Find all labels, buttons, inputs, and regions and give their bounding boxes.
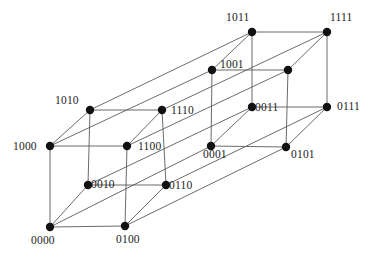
graph-edge [88,110,90,185]
graph-edge [50,185,88,227]
vertex-label: 0111 [337,101,360,113]
vertex-label: 0011 [255,102,278,114]
graph-vertex [46,223,54,231]
vertex-label: 1010 [55,95,79,107]
vertex-label: 1111 [330,12,353,24]
graph-edge [162,110,166,185]
graph-vertex [86,106,94,114]
graph-vertex [46,142,54,150]
graph-vertex [248,28,256,36]
graph-vertex [323,28,331,36]
edge-layer [50,32,327,227]
graph-vertex [282,143,290,151]
graph-edge [286,107,327,147]
graph-edge [125,146,127,226]
tesseract-diagram: 0000100001001100001010100110111000011001… [0,0,381,259]
vertex-label: 1100 [138,141,161,153]
vertex-label: 1110 [171,105,194,117]
vertex-label: 0001 [203,149,227,161]
graph-edge [50,226,125,227]
graph-edge [166,107,327,185]
graph-edge [211,107,252,146]
graph-edge [50,110,90,146]
graph-vertex [121,222,129,230]
vertex-label: 0110 [169,180,192,192]
graph-vertex [208,66,216,74]
vertex-label: 0101 [291,149,315,161]
graph-canvas [0,0,381,259]
graph-edge [288,32,327,70]
vertex-layer [46,28,331,231]
vertex-label: 1001 [220,59,244,71]
graph-edge [211,146,286,147]
graph-edge [211,70,212,146]
vertex-label: 1000 [13,141,37,153]
graph-edge [162,32,327,110]
graph-edge [286,70,288,147]
vertex-label: 0000 [31,235,55,247]
graph-vertex [323,103,331,111]
graph-edge [125,185,166,226]
vertex-label: 0010 [91,179,115,191]
graph-vertex [158,106,166,114]
graph-vertex [284,66,292,74]
graph-vertex [123,142,131,150]
vertex-label: 0100 [116,234,140,246]
vertex-label: 1011 [226,12,249,24]
